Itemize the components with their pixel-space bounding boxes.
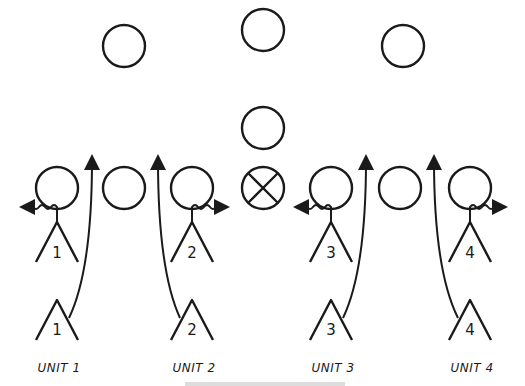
cropped-caption (185, 382, 345, 386)
defender-circle-line (310, 167, 352, 209)
player-number: 3 (326, 321, 336, 339)
long-route-arrow (343, 160, 366, 318)
defender-circle-middle (242, 107, 284, 149)
defender-circle-line (379, 167, 421, 209)
center-x-icon (249, 174, 278, 203)
defender-circle-deep (242, 9, 284, 51)
long-route-arrow (434, 160, 458, 318)
player-number: 4 (465, 321, 475, 339)
unit-label: UNIT 3 (311, 361, 354, 375)
long-route-arrow (69, 160, 92, 318)
player-number: 4 (465, 244, 475, 262)
defender-circle-line (36, 167, 78, 209)
defender-circle-deep (382, 25, 424, 67)
unit-2: 22UNIT 2 (158, 160, 224, 375)
unit-3: 33UNIT 3 (299, 160, 366, 375)
long-route-arrow (158, 160, 180, 318)
defender-circle-line (103, 167, 145, 209)
unit-4: 44UNIT 4 (434, 160, 502, 375)
unit-label: UNIT 1 (37, 361, 80, 375)
unit-label: UNIT 2 (172, 361, 215, 375)
defense-formation (36, 9, 491, 209)
player-number: 2 (187, 321, 197, 339)
player-number: 3 (326, 244, 336, 262)
unit-1: 11UNIT 1 (25, 160, 92, 375)
player-number: 2 (187, 244, 197, 262)
defender-circle-deep (103, 25, 145, 67)
player-number: 1 (52, 321, 62, 339)
offense-units: 11UNIT 122UNIT 233UNIT 344UNIT 4 (25, 160, 502, 375)
defender-circle-line (171, 167, 213, 209)
unit-label: UNIT 4 (450, 361, 493, 375)
player-number: 1 (52, 244, 62, 262)
play-diagram: 11UNIT 122UNIT 233UNIT 344UNIT 4 (0, 0, 525, 386)
defender-circle-line (449, 167, 491, 209)
